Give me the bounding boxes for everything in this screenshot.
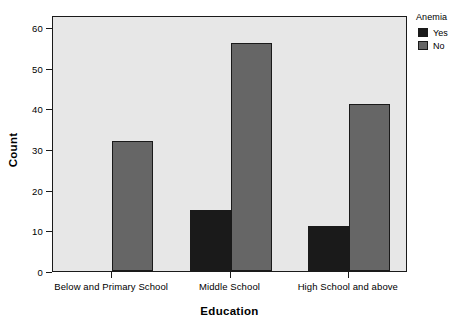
plot-panel <box>52 16 407 272</box>
bar-no-group-0 <box>112 141 153 271</box>
y-axis: Count 0102030405060 <box>0 0 52 325</box>
y-tick-label: 40 <box>32 104 43 115</box>
y-tick-label: 30 <box>32 145 43 156</box>
bar-no-group-2 <box>349 104 390 271</box>
legend-label-yes: Yes <box>433 28 448 38</box>
y-tick-label: 20 <box>32 185 43 196</box>
x-tick-label: Below and Primary School <box>54 281 168 292</box>
legend-title: Anemia <box>416 12 468 22</box>
legend-swatch-yes <box>418 28 428 37</box>
legend-label-no: No <box>433 41 445 51</box>
bar-yes-group-1 <box>190 210 231 271</box>
x-tick-mark <box>348 272 349 278</box>
x-axis-title: Education <box>52 305 407 317</box>
y-tick-label: 50 <box>32 63 43 74</box>
bars-layer <box>53 17 406 271</box>
legend: Anemia YesNo <box>416 12 468 52</box>
legend-entries: YesNo <box>416 26 468 52</box>
legend-item-no: No <box>418 39 468 52</box>
x-axis: Below and Primary SchoolMiddle SchoolHig… <box>52 272 407 325</box>
x-tick-mark <box>111 272 112 278</box>
legend-swatch-no <box>418 41 428 50</box>
y-tick-label: 0 <box>38 267 43 278</box>
x-tick-label: High School and above <box>298 281 398 292</box>
y-tick-label: 10 <box>32 226 43 237</box>
bar-yes-group-2 <box>308 226 349 271</box>
bar-chart-figure: Count 0102030405060 Below and Primary Sc… <box>0 0 468 325</box>
bar-no-group-1 <box>231 43 272 271</box>
y-axis-title: Count <box>7 120 19 180</box>
x-tick-label: Middle School <box>199 281 260 292</box>
y-tick-label: 60 <box>32 23 43 34</box>
legend-item-yes: Yes <box>418 26 468 39</box>
x-tick-mark <box>230 272 231 278</box>
